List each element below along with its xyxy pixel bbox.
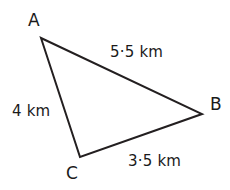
vertex-label-b: B: [210, 96, 222, 113]
side-label-ab: 5·5 km: [110, 45, 163, 60]
side-label-cb: 3·5 km: [128, 154, 181, 169]
vertex-label-c: C: [66, 165, 78, 182]
triangle-diagram: A B C 5·5 km 4 km 3·5 km: [0, 0, 230, 190]
vertex-label-a: A: [28, 12, 40, 29]
side-label-ac: 4 km: [12, 104, 50, 119]
